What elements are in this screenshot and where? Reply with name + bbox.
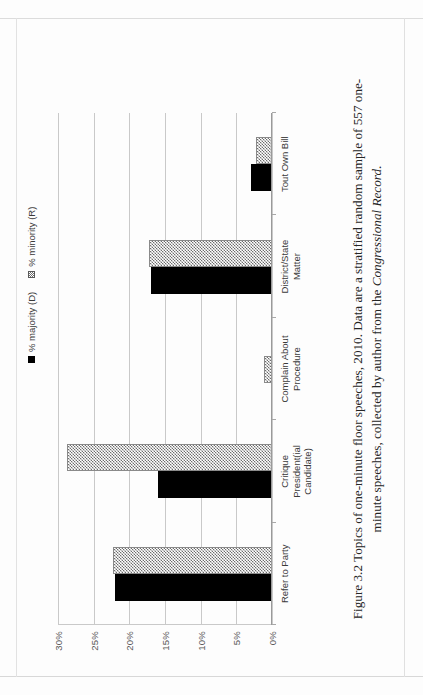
x-axis-category-label: District/State Matter: [279, 215, 302, 317]
caption-end: .: [369, 166, 384, 169]
page-border-right: [0, 18, 423, 19]
page-border-left: [0, 676, 423, 677]
bar-minority[interactable]: [256, 137, 272, 164]
caption-main-text: Figure 3.2 Topics of one-minute floor sp…: [350, 79, 384, 619]
bar-majority[interactable]: [158, 471, 272, 498]
plot-wrapper: 0%5%10%15%20%25%30% Refer to PartyCritiq…: [24, 99, 334, 659]
x-axis-category-label: Complain About Procedure: [279, 318, 302, 420]
page-border-top: [16, 18, 17, 677]
y-axis-tick-30: 30%: [53, 631, 64, 651]
bar-majority[interactable]: [151, 267, 272, 294]
x-axis-category-label: Refer to Party: [279, 523, 291, 625]
x-axis-line: [271, 113, 272, 625]
x-axis-category-label: Critique President(ial Candidate): [279, 420, 314, 522]
x-axis-category-label: Tout Own Bill: [279, 113, 291, 215]
caption-source-title: Congressional Record: [369, 169, 384, 286]
bar-group: [58, 318, 272, 420]
bar-group: [58, 420, 272, 522]
y-axis-tick-15: 15%: [160, 631, 171, 651]
book-page: % majority (D) % minority (R) 0%5%10%15%…: [0, 0, 423, 695]
bars-layer: [58, 113, 272, 625]
page-border-bottom: [404, 18, 405, 677]
bar-minority[interactable]: [113, 547, 272, 574]
y-axis-tick-10: 10%: [195, 631, 206, 651]
y-axis-tick-25: 25%: [88, 631, 99, 651]
plot-area: [58, 113, 272, 625]
bar-majority[interactable]: [251, 164, 272, 191]
gridline-0: [272, 113, 273, 625]
bar-group: [58, 113, 272, 215]
y-axis-tick-labels: 0%5%10%15%20%25%30%: [58, 627, 272, 659]
bar-group: [58, 523, 272, 625]
y-axis-tick-20: 20%: [124, 631, 135, 651]
rotated-page-container: % majority (D) % minority (R) 0%5%10%15%…: [0, 0, 423, 695]
y-axis-tick-0: 0%: [267, 631, 278, 645]
bar-minority[interactable]: [67, 444, 272, 471]
x-axis-category-labels: Refer to PartyCritique President(ial Can…: [276, 113, 322, 625]
figure-caption: Figure 3.2 Topics of one-minute floor sp…: [348, 65, 386, 633]
bar-majority[interactable]: [115, 574, 272, 601]
bar-chart-figure: % majority (D) % minority (R) 0%5%10%15%…: [24, 99, 334, 659]
bar-group: [58, 215, 272, 317]
bar-minority[interactable]: [149, 240, 272, 267]
y-axis-tick-5: 5%: [231, 631, 242, 645]
